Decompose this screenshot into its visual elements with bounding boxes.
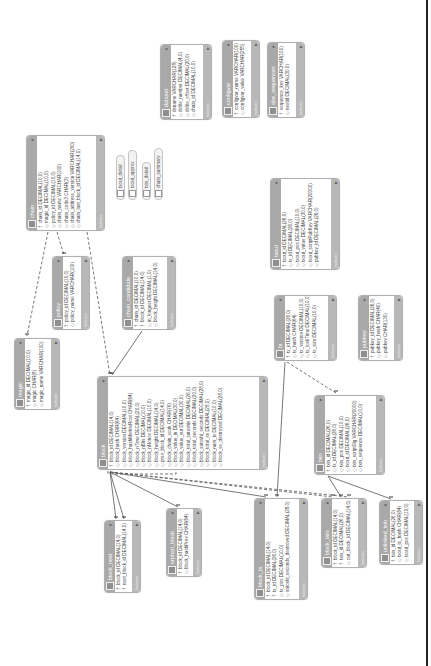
column-row[interactable]: ◇tx_size DECIMAL(10,0) [312, 298, 318, 358]
relationship-block-block_txin[interactable] [110, 472, 349, 497]
column-row[interactable]: ◇pubkey_id DECIMAL(26,0) [314, 181, 320, 267]
table-pubkey[interactable]: pubkey▼†pubkey_id DECIMAL(26,0)◇pubkey_h… [358, 295, 403, 361]
table-unlinked_txin[interactable]: unlinked_txin▼†txin_id DECIMAL(26,0)◇txo… [379, 500, 423, 565]
column-row[interactable]: ◇block_height DECIMAL(14,0) [153, 259, 159, 327]
table-footer-indexes[interactable]: Indexes▶ [203, 45, 211, 119]
column-row[interactable]: ◇policy_name VARCHAR(100) [70, 259, 76, 327]
collapse-arrow-icon[interactable]: ▼ [101, 379, 106, 383]
table-footer-indexes[interactable]: Indexes▶ [51, 339, 59, 409]
view-txout_detail[interactable]: txout_detail [116, 155, 124, 200]
collapse-arrow-icon[interactable]: ▼ [56, 259, 61, 263]
expand-arrow-icon[interactable]: ▶ [360, 501, 365, 504]
expand-arrow-icon[interactable]: ▶ [378, 398, 383, 401]
collapse-arrow-icon[interactable]: ▼ [164, 47, 169, 51]
collapse-arrow-icon[interactable]: ▼ [226, 43, 231, 47]
collapse-arrow-icon[interactable]: ▼ [108, 523, 113, 527]
relationship-block-block_txin[interactable] [110, 472, 333, 497]
table-footer-indexes[interactable]: Indexes▶ [358, 499, 366, 567]
table-tx[interactable]: tx▼†tx_id DECIMAL(26,0)◇tx_hash CHAR(64)… [274, 295, 337, 361]
expand-arrow-icon[interactable]: ▶ [195, 511, 200, 514]
table-chain[interactable]: chain▼†chain_id DECIMAL(10,0)◇magic_id D… [26, 135, 105, 231]
column-row[interactable]: ◇chain_last_block_id DECIMAL(14,0) [76, 138, 82, 228]
table-pubkey_policy[interactable]: policy▼†policy_id DECIMAL(10,0)◇policy_n… [52, 256, 90, 330]
expand-arrow-icon[interactable]: ▶ [333, 181, 338, 184]
relationship-txin-unlinked_txin[interactable] [328, 476, 391, 499]
expand-arrow-icon[interactable]: ▶ [205, 47, 210, 50]
table-orphan_block[interactable]: orphan_block▼†block_id DECIMAL(14,0)◇blo… [166, 508, 202, 577]
column-row[interactable]: ◇out_block_id DECIMAL(14,0) [346, 501, 352, 565]
table-footer-indexes[interactable]: Indexes▶ [251, 41, 259, 117]
table-header[interactable]: tx▼ [275, 296, 285, 360]
column-row[interactable]: ◇nextid DECIMAL(30,0) [285, 45, 291, 115]
table-header[interactable]: orphan_block▼ [167, 509, 177, 576]
table-header[interactable]: unlinked_txin▼ [380, 501, 390, 564]
table-footer-indexes[interactable]: Indexes▶ [296, 43, 304, 117]
table-block_next[interactable]: block_next▼†block_id DECIMAL(14,0)†next_… [104, 520, 141, 593]
table-header[interactable]: dataset▼ [161, 45, 171, 119]
table-block[interactable]: block▼†block_id DECIMAL(14,0)◇block_hash… [97, 376, 268, 470]
relationship-block-block_tx[interactable] [110, 472, 266, 497]
column-row[interactable]: ◇block_ss_destroyed DECIMAL(28,0) [218, 379, 224, 467]
expand-arrow-icon[interactable]: ▶ [169, 259, 174, 262]
table-dataset[interactable]: dataset▼†dsname VARCHAR(128)◇dsfile_numb… [160, 44, 212, 120]
collapse-arrow-icon[interactable]: ▼ [258, 501, 263, 505]
column-row[interactable]: ◇block_hashPrev CHAR(64) [184, 511, 190, 574]
collapse-arrow-icon[interactable]: ▼ [325, 501, 330, 505]
table-header[interactable]: block▼ [98, 377, 108, 469]
table-configvar[interactable]: configvar▼†configvar_name VARCHAR(100)◇c… [222, 40, 260, 118]
table-footer-indexes[interactable]: Indexes▶ [132, 521, 140, 592]
collapse-arrow-icon[interactable]: ▼ [126, 259, 131, 263]
collapse-arrow-icon[interactable]: ▼ [30, 138, 35, 142]
expand-arrow-icon[interactable]: ▶ [298, 45, 303, 48]
expand-arrow-icon[interactable]: ▶ [301, 501, 306, 504]
table-block_tx[interactable]: block_tx▼†block_id DECIMAL(14,0)†tx_id D… [254, 498, 308, 600]
relationship-tx-block_tx[interactable] [277, 362, 285, 497]
table-header[interactable]: configvar▼ [223, 41, 233, 117]
table-header[interactable]: policy▼ [53, 257, 63, 329]
collapse-arrow-icon[interactable]: ▼ [274, 181, 279, 185]
expand-arrow-icon[interactable]: ▶ [53, 341, 58, 344]
column-row[interactable]: ◇txin_sequence DECIMAL(10,0) [358, 398, 364, 472]
column-row[interactable]: †next_block_id DECIMAL(14,0) [122, 523, 128, 590]
table-header[interactable]: chain_candidate▼ [123, 257, 133, 329]
expand-arrow-icon[interactable]: ▶ [134, 523, 139, 526]
relationship-chain-magic[interactable] [27, 232, 48, 336]
table-header[interactable]: block_next▼ [105, 521, 115, 592]
column-row[interactable]: ◇chain_id DECIMAL(10,0) [191, 47, 197, 117]
table-abe_sequences[interactable]: abe_sequences▼†sequence_key VARCHAR(100)… [267, 42, 305, 118]
relationship-tx-txin[interactable] [287, 362, 336, 393]
collapse-arrow-icon[interactable]: ▼ [18, 341, 23, 345]
table-footer-indexes[interactable]: Indexes▶ [96, 136, 104, 230]
relationship-chain_candidate-block[interactable] [112, 331, 142, 375]
table-header[interactable]: block_tx▼ [255, 499, 265, 599]
relationship-block-block_next[interactable] [110, 472, 124, 519]
expand-arrow-icon[interactable]: ▶ [261, 379, 266, 382]
table-chain_candidate[interactable]: chain_candidate▼†chain_id DECIMAL(10,0)†… [122, 256, 176, 330]
collapse-arrow-icon[interactable]: ▼ [271, 45, 276, 49]
table-header[interactable]: abe_sequences▼ [268, 43, 278, 117]
column-row[interactable]: ◇configvar_value VARCHAR(255) [240, 43, 246, 115]
expand-arrow-icon[interactable]: ▶ [396, 298, 401, 301]
table-header[interactable]: txin▼ [315, 396, 325, 474]
view-txout_approx[interactable]: txout_approx [128, 150, 136, 200]
table-footer-indexes[interactable]: Indexes▶ [414, 501, 422, 564]
collapse-arrow-icon[interactable]: ▼ [383, 503, 388, 507]
expand-arrow-icon[interactable]: ▶ [330, 298, 335, 301]
table-block_txin[interactable]: block_txin▼†block_id DECIMAL(14,0)†txin_… [321, 498, 367, 568]
expand-arrow-icon[interactable]: ▶ [83, 259, 88, 262]
table-magic[interactable]: magic▼†magic_id DECIMAL(10,0)◇magic CHAR… [14, 338, 60, 410]
view-txin_detail[interactable]: txin_detail [142, 162, 150, 200]
table-header[interactable]: magic▼ [15, 339, 25, 409]
table-footer-indexes[interactable]: Indexes▶ [81, 257, 89, 329]
expand-arrow-icon[interactable]: ▶ [253, 43, 258, 46]
column-row[interactable]: ◇pubkey CHAR(130) [383, 298, 389, 358]
table-txin[interactable]: txin▼†txin_id DECIMAL(26,0)◇tx_id DECIMA… [314, 395, 385, 475]
table-footer-indexes[interactable]: Indexes▶ [193, 509, 201, 576]
column-row[interactable]: ◇magic_name VARCHAR(100) [39, 341, 45, 407]
expand-arrow-icon[interactable]: ▶ [98, 138, 103, 141]
table-header[interactable]: block_txin▼ [322, 499, 332, 567]
table-footer-indexes[interactable]: Indexes▶ [259, 377, 267, 469]
relationship-txin-block_txin[interactable] [328, 476, 341, 497]
view-chain_summary[interactable]: chain_summary [154, 148, 162, 200]
table-header[interactable]: txout▼ [271, 179, 281, 269]
